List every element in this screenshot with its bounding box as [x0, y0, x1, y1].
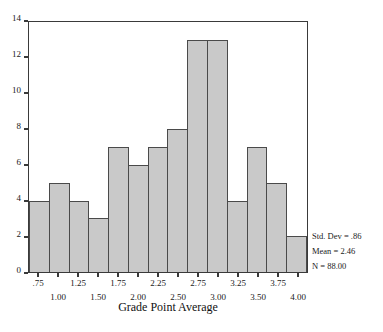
x-axis-tick-label: 1.25: [70, 278, 86, 288]
histogram-bar: [207, 40, 228, 272]
stat-mean: Mean = 2.46: [312, 244, 383, 259]
histogram-bar: [88, 218, 109, 272]
stat-n: N = 88.00: [312, 259, 383, 274]
histogram-bar: [286, 236, 307, 272]
y-axis-tick-label: 10: [12, 86, 21, 95]
histogram-bar: [49, 183, 70, 272]
histogram-bar: [187, 40, 208, 272]
x-axis-tick-mark: [37, 273, 39, 277]
y-axis-tick-label: 4: [17, 194, 22, 203]
x-axis-tick-label: 3.25: [230, 278, 246, 288]
x-axis-tick-mark: [157, 273, 159, 277]
histogram-bar: [128, 165, 149, 272]
histogram-bar: [69, 201, 90, 272]
statistics-annotations: Std. Dev = .86 Mean = 2.46 N = 88.00: [312, 229, 383, 274]
y-axis: 02468101214: [0, 21, 28, 273]
histogram-bar: [227, 201, 248, 272]
y-axis-tick-label: 6: [17, 158, 22, 167]
x-axis-tick-mark: [117, 273, 119, 277]
histogram-bar: [247, 147, 268, 272]
x-axis-tick-mark: [57, 273, 59, 277]
x-axis-tick-mark: [177, 273, 179, 277]
x-axis-tick-mark: [277, 273, 279, 277]
x-axis-tick-label: 2.75: [190, 278, 206, 288]
y-axis-tick-label: 12: [12, 50, 21, 59]
histogram-figure: 02468101214 .751.001.251.501.752.002.252…: [0, 0, 383, 332]
histogram-bar: [29, 201, 50, 272]
x-axis-tick-mark: [137, 273, 139, 277]
x-axis-tick-mark: [217, 273, 219, 277]
histogram-bar: [266, 183, 287, 272]
histogram-bar: [148, 147, 169, 272]
histogram-bar: [108, 147, 129, 272]
x-axis-tick-label: .75: [32, 278, 43, 288]
x-axis-tick-mark: [77, 273, 79, 277]
y-axis-tick-label: 14: [12, 14, 21, 23]
histogram-bar: [167, 129, 188, 272]
y-axis-tick-label: 0: [17, 266, 22, 275]
x-axis-tick-mark: [297, 273, 299, 277]
x-axis-tick-label: 1.75: [110, 278, 126, 288]
x-axis-tick-mark: [237, 273, 239, 277]
bottom-caption: [14, 325, 314, 332]
x-axis-tick-label: 2.25: [150, 278, 166, 288]
y-axis-tick-label: 8: [17, 122, 22, 131]
plot-area: [28, 21, 308, 273]
x-axis-tick-label: 3.75: [270, 278, 286, 288]
bar-series: [29, 22, 307, 272]
x-axis-title: Grade Point Average: [28, 300, 308, 314]
stat-std-dev: Std. Dev = .86: [312, 229, 383, 244]
x-axis-tick-mark: [97, 273, 99, 277]
y-axis-tick-label: 2: [17, 230, 22, 239]
x-axis-tick-mark: [257, 273, 259, 277]
x-axis-tick-mark: [197, 273, 199, 277]
